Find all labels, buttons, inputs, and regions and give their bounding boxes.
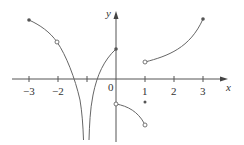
closed-point-3 bbox=[201, 17, 205, 21]
curve-piece-4 bbox=[145, 19, 203, 62]
open-point-1-upper bbox=[143, 60, 147, 64]
tick-label-3: 3 bbox=[200, 85, 206, 97]
y-axis-arrow-icon bbox=[114, 11, 119, 19]
tick-label-origin: 0 bbox=[108, 81, 114, 93]
curve-piece-2 bbox=[89, 49, 116, 140]
isolated-point-1 bbox=[144, 101, 147, 104]
y-axis-label: y bbox=[105, 7, 111, 19]
function-graph: −3 −2 0 1 2 3 x y bbox=[0, 0, 244, 145]
tick-label-neg2: −2 bbox=[52, 85, 64, 97]
closed-point-neg3 bbox=[27, 18, 31, 22]
closed-point-0-upper bbox=[114, 47, 118, 51]
tick-label-1: 1 bbox=[142, 85, 148, 97]
tick-label-2: 2 bbox=[171, 85, 177, 97]
open-point-0-lower bbox=[114, 102, 118, 106]
tick-label-neg3: −3 bbox=[23, 85, 35, 97]
open-point-neg2 bbox=[55, 40, 59, 44]
open-point-1-lower bbox=[143, 123, 147, 127]
curve-piece-1 bbox=[29, 20, 84, 140]
x-axis-label: x bbox=[225, 81, 231, 93]
curve-piece-3 bbox=[116, 104, 144, 123]
